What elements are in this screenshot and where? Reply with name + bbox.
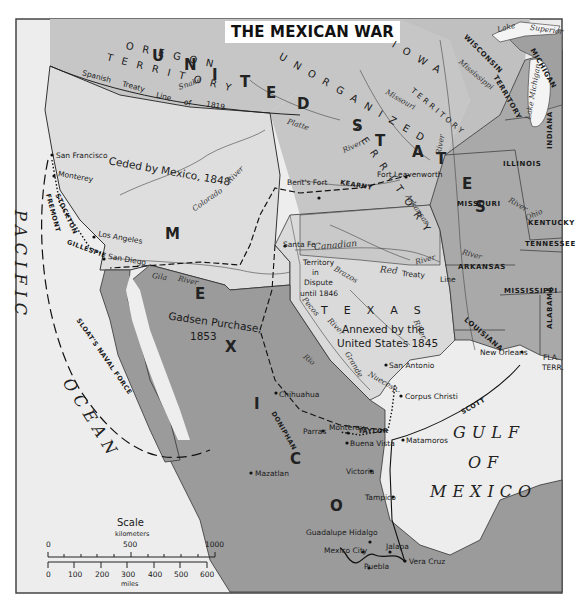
city-san-antonio: San Antonio: [389, 361, 434, 370]
map-canvas: [0, 0, 579, 601]
red-river-line: Line: [440, 275, 456, 284]
scale-km-label: kilometers: [115, 530, 149, 538]
united-d: D: [297, 95, 309, 113]
united-i: I: [212, 66, 218, 84]
river-red: Red: [380, 264, 399, 276]
city-victoria: Victoria: [346, 467, 374, 476]
state-indiana: INDIANA: [546, 111, 554, 149]
city-bents-fort: Bent's Fort: [287, 178, 327, 187]
united-t: T: [240, 73, 250, 91]
united-e: E: [266, 84, 276, 102]
route-label-taylor: TAYLOR: [358, 427, 389, 435]
mexico-m: M: [165, 225, 180, 243]
city-corpus-christi: Corpus Christi: [405, 392, 458, 401]
city-parras: Parras: [303, 427, 326, 436]
dispute-label-1: Territory: [303, 258, 334, 267]
city-jalapa: Jalapa: [386, 542, 409, 551]
scale-mi-400: 400: [148, 570, 162, 579]
mexico-o: O: [330, 497, 343, 515]
mexico-i: I: [254, 395, 260, 413]
scale-km-500: 500: [123, 540, 137, 549]
states-s: S: [352, 117, 363, 135]
fla-terr-2: TERR.: [542, 363, 564, 372]
map-title: THE MEXICAN WAR: [225, 21, 400, 43]
mexico-c: C: [290, 450, 301, 468]
dispute-label-2: in: [312, 268, 319, 277]
mexico-x: X: [225, 338, 237, 356]
red-river-treaty: Treaty: [402, 269, 426, 280]
state-arkansas: ARKANSAS: [458, 263, 506, 271]
state-alabama: ALABAMA: [546, 286, 554, 329]
gadsen-year: 1853: [190, 330, 217, 342]
state-tennessee: TENNESSEE: [525, 240, 576, 248]
scale-km-0: 0: [46, 540, 51, 549]
scale-title: Scale: [117, 517, 144, 528]
city-fort-leavenworth: Fort Leavenworth: [377, 170, 443, 179]
scale-mi-200: 200: [95, 570, 109, 579]
texas-label: TEXAS: [321, 304, 437, 317]
city-tampico: Tampico: [365, 493, 396, 502]
scale-mi-label: miles: [121, 580, 138, 588]
united-u: U: [152, 47, 164, 65]
city-puebla: Puebla: [364, 562, 389, 571]
mexico-e: E: [195, 285, 205, 303]
city-matamoros: Matamoros: [406, 436, 448, 445]
states-t: T: [375, 132, 385, 150]
state-illinois: ILLINOIS: [503, 160, 541, 168]
city-mazatlan: Mazatlan: [255, 469, 289, 478]
states-e: E: [462, 175, 472, 193]
city-new-orleans: New Orleans: [480, 348, 528, 357]
river-nueces-r: R.: [392, 385, 400, 394]
gulf-label: GULF: [453, 423, 525, 442]
united-n: N: [184, 56, 197, 74]
city-chihuahua: Chihuahua: [279, 390, 319, 399]
scale-mi-600: 600: [200, 570, 214, 579]
pacific-label: PACIFIC: [11, 210, 30, 321]
city-vera-cruz: Vera Cruz: [409, 557, 445, 566]
scale-mi-0: 0: [46, 570, 51, 579]
scale-mi-100: 100: [68, 570, 82, 579]
state-missouri: MISSOURI: [457, 200, 501, 208]
states-a: A: [412, 143, 424, 161]
scale-mi-500: 500: [174, 570, 188, 579]
scale-mi-300: 300: [121, 570, 135, 579]
city-mexico-city: Mexico City: [324, 546, 367, 555]
city-santa-fe: Santa Fe: [283, 240, 316, 249]
dispute-label-3: Dispute: [304, 278, 333, 287]
city-san-francisco: San Francisco: [56, 151, 108, 160]
of-label: OF: [468, 453, 504, 472]
state-kentucky: KENTUCKY: [528, 219, 575, 227]
fla-terr-1: FLA.: [543, 353, 559, 362]
city-guadalupe-hidalgo: Guadalupe Hidalgo: [306, 528, 378, 537]
mexico-water-label: MEXICO: [430, 482, 537, 501]
city-buena-vista: Buena Vista: [350, 439, 395, 448]
scale-km-1000: 1000: [205, 540, 224, 549]
